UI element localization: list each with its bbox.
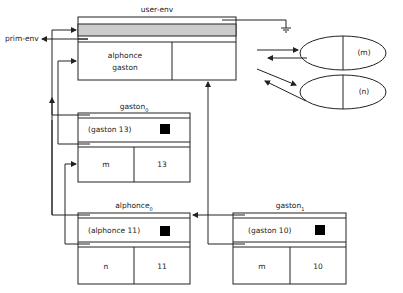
prim-env-label: prim-env — [5, 34, 39, 43]
user-env-box — [78, 17, 236, 80]
frame-param: m — [102, 160, 109, 169]
frame-title: gaston0 — [120, 102, 149, 113]
frame-value: 10 — [313, 262, 323, 271]
frame-title: gaston1 — [276, 201, 305, 212]
frame-value: 13 — [157, 160, 167, 169]
closure-n-param: (n) — [359, 87, 370, 96]
frame-call: (alphonce 11) — [88, 226, 140, 235]
frame-value: 11 — [157, 262, 167, 271]
binding-alphonce: alphonce — [108, 51, 142, 60]
frame-param: m — [258, 262, 265, 271]
frame-param: n — [104, 262, 109, 271]
ground-icon — [236, 20, 291, 32]
frame-call: (gaston 10) — [248, 226, 291, 235]
closure-m-param: (m) — [357, 48, 370, 57]
frame-title: alphonce0 — [115, 201, 152, 212]
frame-call: (gaston 13) — [88, 125, 131, 134]
user-env-title: user-env — [141, 5, 173, 14]
binding-gaston: gaston — [112, 63, 138, 72]
diagram-canvas — [0, 0, 403, 293]
